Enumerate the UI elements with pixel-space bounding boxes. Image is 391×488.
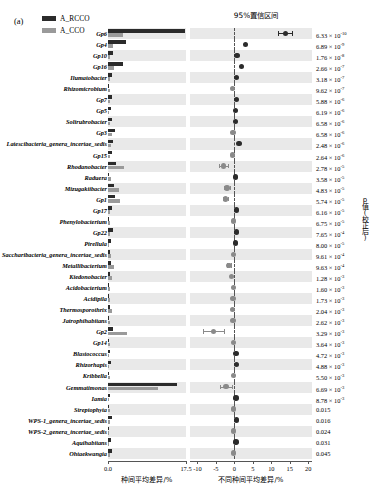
bar-a-cco — [108, 232, 110, 236]
difference-dot — [224, 185, 229, 190]
ci-dot-cell — [190, 426, 312, 437]
taxon-label: Kribbella — [83, 370, 107, 381]
p-value: 0.015 — [316, 404, 330, 415]
p-value: 3.58 × 10-5 — [316, 172, 344, 183]
zero-reference-line — [234, 326, 235, 337]
bar-a-rcco — [108, 361, 111, 365]
taxon-label: Gp5 — [96, 105, 107, 116]
difference-dot — [283, 31, 288, 36]
p-value: 2.66 × 10-7 — [316, 61, 344, 72]
taxon-label: Jatrophihabitans — [63, 315, 107, 326]
bar-a-cco — [108, 155, 110, 159]
difference-dot — [230, 318, 235, 323]
proportion-bars — [108, 250, 186, 259]
p-value: 0.024 — [316, 426, 330, 437]
difference-dot — [234, 53, 239, 58]
ci-dot-cell — [190, 150, 312, 161]
difference-dot — [233, 240, 238, 245]
p-value: 2.48 × 10-6 — [316, 138, 344, 149]
proportion-bars — [108, 51, 186, 60]
p-value: 9.61 × 10-4 — [316, 249, 344, 260]
bar-a-rcco — [108, 283, 109, 287]
right-axis-tick — [253, 461, 254, 464]
bar-a-rcco — [108, 62, 123, 66]
ci-error-cap-high — [228, 197, 229, 202]
left-axis-tick-label: 0.0 — [104, 465, 112, 472]
proportion-bars — [108, 228, 186, 237]
bar-a-cco — [108, 431, 109, 435]
right-axis-tick — [271, 461, 272, 464]
right-axis-tick — [197, 461, 198, 464]
left-axis-tick — [186, 461, 187, 464]
bar-a-cco — [108, 409, 110, 413]
ci-dot-cell — [190, 28, 312, 39]
bar-a-cco — [108, 221, 110, 225]
ci-error-cap-high — [228, 164, 229, 169]
difference-dot — [234, 97, 239, 102]
taxon-label: Acidipila — [84, 293, 107, 304]
legend-label-a-rcco: A_RCCO — [60, 14, 90, 23]
bar-a-cco — [108, 210, 110, 214]
difference-dot — [231, 450, 236, 455]
taxa-row: Gp56.19 × 10-6 — [0, 105, 391, 116]
bar-a-rcco — [108, 327, 113, 331]
bar-a-cco — [108, 453, 110, 457]
bar-a-rcco — [108, 84, 109, 88]
taxon-label: Rhizomicrobium — [64, 83, 107, 94]
p-value: 9.62 × 10-7 — [316, 83, 344, 94]
ci-dot-cell — [190, 382, 312, 393]
taxa-row: Solirubrobacter6.58 × 10-6 — [0, 116, 391, 127]
taxa-row: Latescibacteria_genera_incertae_sedis2.4… — [0, 138, 391, 149]
taxon-label: Metallibacterium — [62, 260, 107, 271]
zero-reference-line — [234, 260, 235, 271]
taxon-label: Saccharibacteria_genera_incertae_sedis — [2, 249, 107, 260]
p-value: 1.28 × 10-3 — [316, 271, 344, 282]
right-axis-label: p值(校正后) — [360, 196, 370, 241]
taxa-row: Ohtaekwangia0.045 — [0, 448, 391, 459]
p-value: 3.29 × 10-3 — [316, 326, 344, 337]
ci-error-cap-low — [219, 164, 220, 169]
taxa-row: Raduera3.58 × 10-5 — [0, 172, 391, 183]
ci-error-cap-high — [230, 186, 231, 191]
zero-reference-line — [234, 28, 235, 39]
p-value: 7.65 × 10-4 — [316, 227, 344, 238]
right-axis-tick-label: 5 — [251, 465, 254, 472]
bar-a-cco — [108, 199, 120, 203]
bar-a-cco — [108, 44, 113, 48]
proportion-bars — [108, 139, 186, 148]
ci-dot-cell — [190, 50, 312, 61]
bar-a-rcco — [108, 73, 112, 77]
p-value: 6.69 × 10-3 — [316, 382, 344, 393]
ci-dot-cell — [190, 271, 312, 282]
proportion-bars — [108, 151, 186, 160]
bar-a-cco — [108, 321, 110, 325]
proportion-bars — [108, 305, 186, 314]
p-value: 6.89 × 10-9 — [316, 39, 344, 50]
bar-a-cco — [108, 354, 109, 358]
difference-dot — [236, 141, 241, 146]
taxa-row: Gp46.89 × 10-9 — [0, 39, 391, 50]
zero-reference-line — [234, 382, 235, 393]
ci-error-cap-high — [232, 385, 233, 390]
taxa-row: Gp176.16 × 10-5 — [0, 205, 391, 216]
proportion-bars — [108, 117, 186, 126]
p-value: 6.58 × 10-6 — [316, 127, 344, 138]
taxon-label: Aquihabitans — [72, 437, 107, 448]
taxa-row: Blastococcus4.72 × 10-3 — [0, 348, 391, 359]
ci-dot-cell — [190, 94, 312, 105]
taxon-label: Raduera — [85, 172, 107, 183]
bar-a-cco — [108, 332, 127, 336]
ci-dot-cell — [190, 326, 312, 337]
ci-dot-cell — [190, 194, 312, 205]
proportion-bars — [108, 394, 186, 403]
bar-a-rcco — [108, 339, 109, 343]
bar-a-cco — [108, 188, 119, 192]
ci-dot-cell — [190, 249, 312, 260]
proportion-bars — [108, 294, 186, 303]
taxon-label: Mizugakiibacter — [65, 183, 107, 194]
taxa-row: WPS-2_genera_incertae_sedis0.024 — [0, 426, 391, 437]
panel-label: (a) — [14, 16, 23, 26]
ci-error-cap-high — [224, 329, 225, 334]
zero-reference-line — [234, 183, 235, 194]
taxa-row: WPS-1_genera_incertae_sedis0.016 — [0, 415, 391, 426]
